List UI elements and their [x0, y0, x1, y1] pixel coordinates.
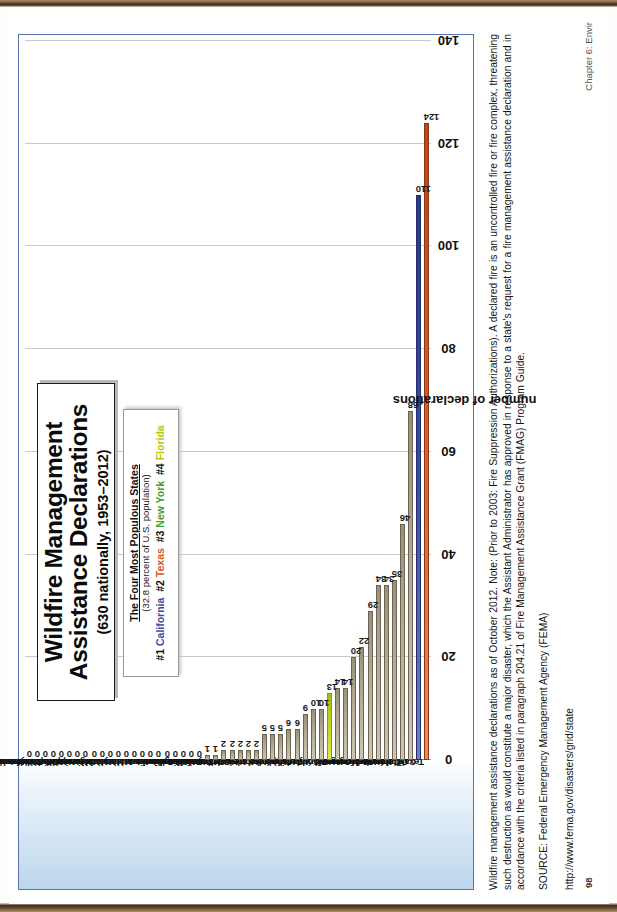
bar-value-maine: 0 — [132, 752, 137, 757]
bar-value-massachusetts: 0 — [115, 752, 120, 757]
bar-virginia[interactable] — [286, 729, 291, 760]
bar-value-california: 110 — [416, 187, 431, 192]
bar-value-pennsylvania: 0 — [50, 752, 55, 757]
bar-value-south-carolina: 2 — [229, 742, 234, 747]
title-line1: Wildfire Management — [39, 422, 66, 662]
bar-group: 2Kansas — [253, 41, 258, 760]
bar-value-arkansas: 0 — [188, 752, 193, 757]
bar-wyoming[interactable] — [310, 709, 315, 760]
bar-colorado[interactable] — [400, 524, 405, 760]
bar-group: 29Arizona — [367, 41, 372, 760]
legend-items: #1 California #2 Texas #3 New York #4 Fl… — [153, 416, 167, 670]
y-axis-tick-140: 140 — [433, 33, 463, 48]
scan-edge-bottom — [0, 903, 617, 912]
legend-state-name: California — [154, 598, 166, 646]
bar-value-alaska: 5 — [278, 726, 283, 731]
running-head: Chapter 6: Envir — [583, 22, 594, 91]
bar-group: 1West Virginia — [205, 41, 210, 760]
chart-panel: 124Texas110California68Oklahoma46Colorad… — [18, 34, 474, 890]
bar-oregon[interactable] — [351, 657, 356, 760]
bar-minnesota[interactable] — [221, 750, 226, 760]
bar-idaho[interactable] — [294, 729, 299, 760]
figure-caption: Wildfire management assistance declarati… — [487, 34, 576, 890]
caption-source: SOURCE: Federal Emergency Management Age… — [537, 34, 551, 890]
bar-value-georgia: 9 — [302, 706, 307, 711]
bar-value-rhode-island: 0 — [42, 752, 47, 757]
bar-group: 10Wyoming — [310, 41, 315, 760]
bar-group: 6Idaho — [294, 41, 299, 760]
bar-nevada[interactable] — [383, 585, 388, 760]
bar-group: 2South Carolina — [229, 41, 234, 760]
bar-hawaii[interactable] — [343, 688, 348, 760]
bar-texas[interactable] — [424, 123, 429, 760]
bar-montana[interactable] — [359, 647, 364, 760]
scan-edge-top — [0, 0, 617, 7]
bar-group: 0Connecticut — [180, 41, 185, 760]
chart-title-box: Wildfire Management Assistance Declarati… — [37, 383, 115, 701]
bar-value-washington: 34 — [375, 577, 385, 582]
bar-new-mexico[interactable] — [391, 580, 396, 760]
legend-rank: #4 — [154, 460, 166, 475]
bar-group: 5Alaska — [278, 41, 283, 760]
bar-value-west-virginia: 1 — [205, 747, 210, 752]
bar-value-new-hampshire: 0 — [83, 752, 88, 757]
caption-url[interactable]: http://www.fema.gov/disasters/grid/state — [562, 34, 576, 890]
page-number: 98 — [583, 877, 594, 888]
legend-item-california: #1 California — [154, 598, 166, 661]
bar-washington[interactable] — [375, 585, 380, 760]
y-axis-tick-0: 0 — [433, 752, 463, 767]
bar-value-alabama: 0 — [197, 752, 202, 757]
bar-new-jersey[interactable] — [245, 750, 250, 760]
bar-group: 10South Dakota — [318, 41, 323, 760]
bar-group: 14Utah — [335, 41, 340, 760]
bar-arizona[interactable] — [367, 611, 372, 760]
y-axis-tick-20: 20 — [433, 649, 463, 664]
bar-value-ohio: 0 — [59, 752, 64, 757]
bar-tennessee[interactable] — [213, 755, 218, 760]
bar-group: 34Washington — [375, 41, 380, 760]
legend-state-name: Texas — [154, 548, 166, 577]
bar-group: 20Oregon — [351, 41, 356, 760]
legend-state-name: New York — [154, 481, 166, 528]
legend-state-name: Florida — [154, 425, 166, 460]
bar-value-arizona: 29 — [367, 603, 377, 608]
bar-group: 2New Jersey — [245, 41, 250, 760]
bar-value-new-jersey: 2 — [245, 742, 250, 747]
y-axis-tick-120: 120 — [433, 135, 463, 150]
bar-value-idaho: 6 — [294, 721, 299, 726]
bar-group: 2North Carolina — [237, 41, 242, 760]
bar-california[interactable] — [416, 195, 421, 760]
bar-value-tennessee: 1 — [213, 747, 218, 752]
bar-group: 2Minnesota — [221, 41, 226, 760]
legend-rank: #2 — [154, 577, 166, 592]
bar-value-texas: 124 — [424, 115, 439, 120]
bar-oklahoma[interactable] — [408, 411, 413, 760]
bar-group: 5Kentucky — [270, 41, 275, 760]
legend-item-texas: #2 Texas — [154, 548, 166, 592]
bar-value-colorado: 46 — [400, 516, 410, 521]
bar-kansas[interactable] — [253, 750, 258, 760]
page-title: Wildfire Management Assistance Declarati… — [40, 404, 90, 680]
bar-value-new-york: 0 — [75, 752, 80, 757]
legend-heading: The Four Most Populous States — [128, 416, 140, 670]
bar-west-virginia[interactable] — [205, 755, 210, 760]
page-content-rotated: 124Texas110California68Oklahoma46Colorad… — [9, 8, 609, 904]
scanned-page: 124Texas110California68Oklahoma46Colorad… — [0, 0, 617, 912]
bar-group: 0Wisconsin — [26, 41, 31, 760]
bar-value-indiana: 0 — [156, 752, 161, 757]
bar-utah[interactable] — [335, 688, 340, 760]
bar-kentucky[interactable] — [270, 734, 275, 760]
bar-group: 14Hawaii — [343, 41, 348, 760]
bar-south-dakota[interactable] — [318, 709, 323, 760]
bar-value-kansas: 2 — [253, 742, 258, 747]
bar-value-oregon: 20 — [351, 649, 361, 654]
y-axis-tick-40: 40 — [433, 546, 463, 561]
bar-georgia[interactable] — [302, 714, 307, 760]
chart-subtitle: (630 nationally, 1953–2012) — [95, 449, 111, 634]
legend-item-florida: #4 Florida — [154, 425, 166, 475]
legend-item-new-york: #3 New York — [154, 481, 166, 543]
title-line2: Assistance Declarations — [65, 404, 92, 680]
bar-alaska[interactable] — [278, 734, 283, 760]
bar-nebraska[interactable] — [262, 734, 267, 760]
bar-group: 5Nebraska — [262, 41, 267, 760]
